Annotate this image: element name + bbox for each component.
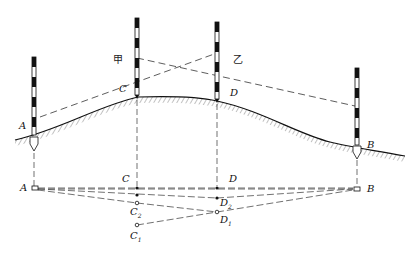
pole-D <box>215 22 219 103</box>
plan-point-D <box>215 186 218 189</box>
label-profile-B: B <box>367 140 374 150</box>
line-extension-diagram <box>0 0 420 254</box>
label-sightline-yi: 乙 <box>233 55 243 65</box>
label-plan-D1: D1 <box>220 215 232 225</box>
label-plan-C1: C1 <box>130 231 141 241</box>
label-sightline-jia: 甲 <box>113 55 123 65</box>
label-plan-B: B <box>367 184 374 194</box>
plan-point-C2 <box>135 201 139 205</box>
projection-lines <box>34 100 357 186</box>
plan-point-A <box>32 186 38 190</box>
label-plan-A: A <box>20 183 27 193</box>
plan-point-D1 <box>215 210 219 214</box>
label-profile-C: C <box>119 84 127 94</box>
label-plan-D: D <box>229 174 237 184</box>
label-plan-D2: D2 <box>220 198 232 208</box>
plan-point-C1 <box>135 223 139 227</box>
pole-B <box>353 68 361 159</box>
plan-lines <box>38 188 353 225</box>
plan-point-C-mid <box>135 193 138 196</box>
label-profile-A: A <box>19 121 26 131</box>
plan-point-B <box>354 187 360 191</box>
sightline-jia <box>40 53 217 117</box>
plan-point-D2 <box>215 196 218 199</box>
pole-A <box>30 57 38 151</box>
plan-point-C <box>135 186 138 189</box>
label-plan-C: C <box>122 174 130 184</box>
label-profile-D: D <box>230 88 238 98</box>
label-plan-C2: C2 <box>130 207 141 217</box>
ground-hatching <box>15 97 405 162</box>
pole-C <box>135 18 139 99</box>
